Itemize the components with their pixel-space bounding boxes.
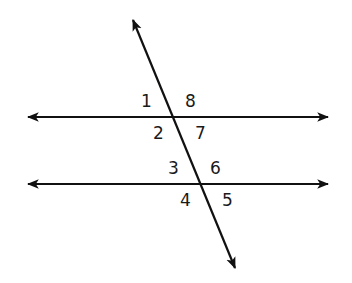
angle-label-6: 6 [210, 158, 221, 178]
transversal-line [133, 20, 235, 268]
angle-label-4: 4 [180, 190, 191, 210]
angle-label-3: 3 [168, 158, 179, 178]
angle-label-7: 7 [195, 123, 206, 143]
parallel-lines-diagram: 1 8 2 7 3 6 4 5 [0, 0, 352, 283]
angle-label-5: 5 [222, 190, 233, 210]
angle-label-8: 8 [185, 91, 196, 111]
angle-label-2: 2 [153, 123, 164, 143]
angle-label-1: 1 [141, 91, 152, 111]
diagram-canvas: 1 8 2 7 3 6 4 5 [0, 0, 352, 283]
